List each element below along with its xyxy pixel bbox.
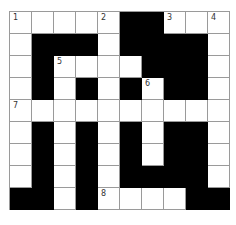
letter-cell[interactable]	[54, 122, 76, 144]
block-cell	[120, 166, 142, 188]
letter-cell[interactable]	[142, 122, 164, 144]
letter-cell[interactable]	[98, 34, 120, 56]
letter-cell[interactable]	[54, 188, 76, 210]
clue-number: 4	[211, 13, 216, 22]
block-cell	[32, 144, 54, 166]
letter-cell[interactable]	[54, 78, 76, 100]
block-cell	[32, 188, 54, 210]
letter-cell[interactable]	[208, 100, 230, 122]
letter-cell[interactable]: 8	[98, 188, 120, 210]
letter-cell[interactable]	[98, 100, 120, 122]
block-cell	[54, 34, 76, 56]
block-cell	[76, 78, 98, 100]
block-cell	[76, 144, 98, 166]
letter-cell[interactable]	[186, 100, 208, 122]
block-cell	[32, 56, 54, 78]
clue-number: 7	[13, 101, 18, 110]
letter-cell[interactable]	[208, 34, 230, 56]
block-cell	[186, 144, 208, 166]
letter-cell[interactable]	[98, 122, 120, 144]
letter-cell[interactable]: 6	[142, 78, 164, 100]
block-cell	[76, 122, 98, 144]
block-cell	[186, 188, 208, 210]
letter-cell[interactable]	[32, 100, 54, 122]
letter-cell[interactable]	[98, 56, 120, 78]
letter-cell[interactable]	[120, 56, 142, 78]
clue-number: 8	[101, 189, 106, 198]
block-cell	[142, 56, 164, 78]
letter-cell[interactable]	[76, 100, 98, 122]
block-cell	[164, 122, 186, 144]
block-cell	[186, 166, 208, 188]
letter-cell[interactable]	[164, 188, 186, 210]
block-cell	[142, 12, 164, 34]
letter-cell[interactable]	[120, 100, 142, 122]
block-cell	[186, 34, 208, 56]
block-cell	[142, 166, 164, 188]
letter-cell[interactable]	[10, 78, 32, 100]
letter-cell[interactable]	[208, 56, 230, 78]
block-cell	[32, 166, 54, 188]
block-cell	[142, 34, 164, 56]
block-cell	[76, 188, 98, 210]
block-cell	[120, 122, 142, 144]
letter-cell[interactable]	[76, 12, 98, 34]
letter-cell[interactable]: 2	[98, 12, 120, 34]
letter-cell[interactable]	[10, 166, 32, 188]
letter-cell[interactable]: 4	[208, 12, 230, 34]
block-cell	[186, 56, 208, 78]
letter-cell[interactable]	[98, 166, 120, 188]
letter-cell[interactable]	[208, 78, 230, 100]
block-cell	[76, 34, 98, 56]
block-cell	[164, 34, 186, 56]
letter-cell[interactable]	[142, 144, 164, 166]
letter-cell[interactable]	[164, 100, 186, 122]
block-cell	[164, 56, 186, 78]
block-cell	[76, 166, 98, 188]
block-cell	[164, 166, 186, 188]
letter-cell[interactable]	[98, 78, 120, 100]
block-cell	[164, 144, 186, 166]
block-cell	[32, 78, 54, 100]
block-cell	[120, 34, 142, 56]
letter-cell[interactable]	[10, 144, 32, 166]
clue-number: 1	[13, 13, 18, 22]
block-cell	[10, 188, 32, 210]
block-cell	[120, 144, 142, 166]
letter-cell[interactable]	[54, 12, 76, 34]
letter-cell[interactable]	[208, 144, 230, 166]
letter-cell[interactable]: 7	[10, 100, 32, 122]
block-cell	[120, 12, 142, 34]
letter-cell[interactable]	[120, 188, 142, 210]
crossword-grid: 12345678	[9, 11, 230, 210]
letter-cell[interactable]: 1	[10, 12, 32, 34]
block-cell	[208, 188, 230, 210]
letter-cell[interactable]: 5	[54, 56, 76, 78]
clue-number: 3	[167, 13, 172, 22]
letter-cell[interactable]	[186, 12, 208, 34]
letter-cell[interactable]	[142, 100, 164, 122]
block-cell	[186, 122, 208, 144]
block-cell	[164, 78, 186, 100]
letter-cell[interactable]	[54, 100, 76, 122]
clue-number: 5	[57, 57, 62, 66]
letter-cell[interactable]	[10, 34, 32, 56]
letter-cell[interactable]	[208, 166, 230, 188]
letter-cell[interactable]	[142, 188, 164, 210]
letter-cell[interactable]	[54, 144, 76, 166]
letter-cell[interactable]	[208, 122, 230, 144]
block-cell	[120, 78, 142, 100]
clue-number: 6	[145, 79, 150, 88]
letter-cell[interactable]	[98, 144, 120, 166]
block-cell	[186, 78, 208, 100]
letter-cell[interactable]	[10, 56, 32, 78]
block-cell	[32, 34, 54, 56]
block-cell	[32, 122, 54, 144]
letter-cell[interactable]	[32, 12, 54, 34]
letter-cell[interactable]	[54, 166, 76, 188]
letter-cell[interactable]	[10, 122, 32, 144]
letter-cell[interactable]	[76, 56, 98, 78]
letter-cell[interactable]: 3	[164, 12, 186, 34]
clue-number: 2	[101, 13, 106, 22]
